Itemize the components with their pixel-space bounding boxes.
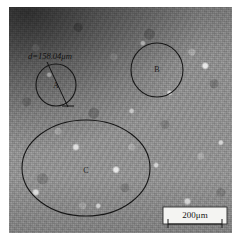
micrograph-image <box>9 7 232 233</box>
micrograph-figure: A d=158.04μm B C 200μm <box>0 0 237 241</box>
micrograph-illumination-shading <box>9 7 232 233</box>
